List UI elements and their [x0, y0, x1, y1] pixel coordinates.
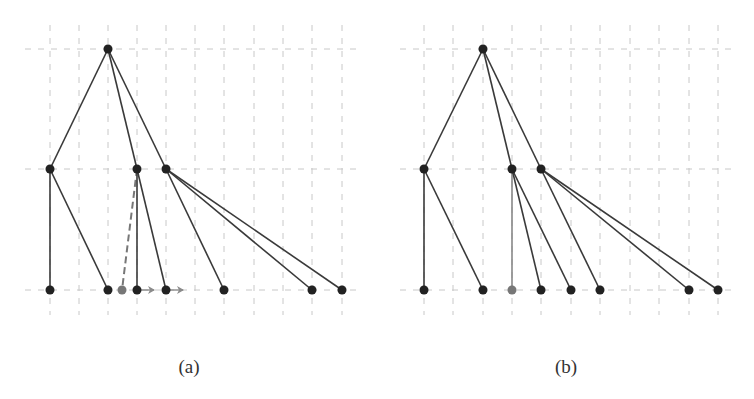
tree-edge: [166, 169, 224, 290]
caption-b: (b): [555, 356, 577, 378]
tree-node: [338, 286, 347, 295]
tree-node: [420, 165, 429, 174]
tree-node: [104, 45, 113, 54]
tree-node: [714, 286, 723, 295]
tree-edge: [541, 169, 600, 290]
grid: [25, 25, 358, 315]
tree-node: [133, 165, 142, 174]
figure-b: [400, 25, 735, 315]
tree-edge: [541, 169, 718, 290]
tree-node: [479, 286, 488, 295]
highlighted-node: [118, 286, 127, 295]
tree-edge: [166, 169, 312, 290]
tree-edge: [166, 169, 342, 290]
tree-node: [685, 286, 694, 295]
tree-node: [220, 286, 229, 295]
dashed-edge: [122, 169, 137, 290]
tree-node: [308, 286, 317, 295]
tree-node: [567, 286, 576, 295]
tree-node: [104, 286, 113, 295]
grid: [400, 25, 735, 315]
tree-node: [479, 45, 488, 54]
tree-edge: [512, 169, 541, 290]
tree-edge: [50, 169, 108, 290]
tree-node: [133, 286, 142, 295]
tree-node: [537, 165, 546, 174]
caption-a: (a): [178, 356, 199, 378]
tree-edge: [137, 169, 166, 290]
tree-node: [537, 286, 546, 295]
tree-edge: [541, 169, 689, 290]
tree-node: [508, 165, 517, 174]
tree-edge: [108, 49, 137, 169]
tree-diagram-canvas: [0, 0, 754, 399]
tree-edge: [424, 169, 483, 290]
tree-node: [162, 165, 171, 174]
figure-a: [25, 25, 358, 315]
tree-node: [596, 286, 605, 295]
tree-node: [46, 165, 55, 174]
tree-edge: [483, 49, 512, 169]
tree-node: [46, 286, 55, 295]
highlighted-node: [508, 286, 517, 295]
tree-node: [162, 286, 171, 295]
tree-node: [420, 286, 429, 295]
